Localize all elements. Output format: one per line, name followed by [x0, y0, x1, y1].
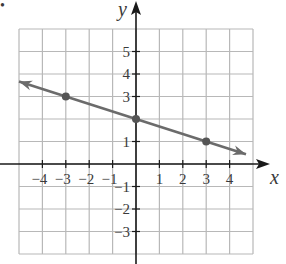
chart-svg: −4−3−2−112345431−1−2−3 x y • — [0, 0, 286, 264]
data-point — [132, 115, 140, 123]
x-tick-label: 4 — [226, 171, 234, 187]
y-tick-label: −1 — [114, 179, 130, 195]
x-tick-label: 2 — [179, 171, 187, 187]
y-tick-label: 5 — [123, 44, 131, 60]
y-tick-label: −3 — [114, 224, 130, 240]
data-series — [19, 81, 246, 155]
data-point — [202, 138, 210, 146]
y-tick-label: 1 — [123, 134, 131, 150]
x-tick-label: −4 — [31, 171, 47, 187]
x-axis-label: x — [269, 166, 279, 188]
x-tick-label: 3 — [202, 171, 210, 187]
y-tick-label: 4 — [123, 66, 131, 82]
y-tick-label: 3 — [123, 89, 131, 105]
bullet-marker: • — [0, 0, 5, 13]
x-tick-label: 1 — [156, 171, 164, 187]
x-tick-label: −3 — [55, 171, 71, 187]
y-axis-label: y — [116, 0, 127, 21]
coordinate-plane-chart: −4−3−2−112345431−1−2−3 x y • — [0, 0, 286, 264]
x-tick-label: −2 — [78, 171, 94, 187]
data-point — [62, 93, 70, 101]
y-tick-label: −2 — [114, 201, 130, 217]
